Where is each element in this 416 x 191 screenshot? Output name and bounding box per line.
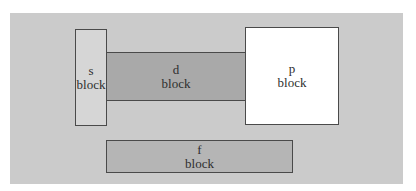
s-block: s block bbox=[75, 29, 107, 126]
s-block-word: block bbox=[77, 78, 106, 92]
f-block-word: block bbox=[185, 157, 214, 171]
f-block: f block bbox=[106, 140, 293, 173]
d-block-word: block bbox=[162, 77, 191, 91]
d-block: d block bbox=[106, 52, 246, 101]
s-block-letter: s bbox=[88, 64, 93, 78]
p-block-letter: p bbox=[289, 62, 296, 76]
f-block-letter: f bbox=[197, 143, 201, 157]
d-block-letter: d bbox=[173, 63, 180, 77]
p-block-word: block bbox=[278, 76, 307, 90]
p-block: p block bbox=[245, 27, 339, 125]
